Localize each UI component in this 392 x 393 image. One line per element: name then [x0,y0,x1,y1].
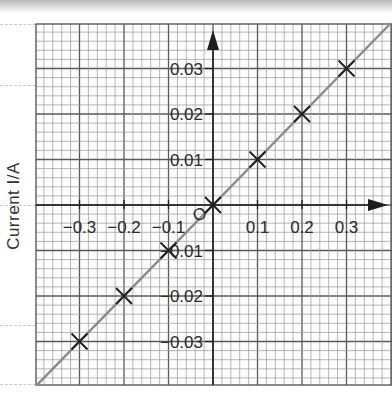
y-tick-label: −0.03 [160,333,203,352]
y-tick-label: −0.01 [160,242,203,261]
x-tick-label: 0.2 [290,218,314,237]
x-tick-label: 0.1 [246,218,270,237]
x-tick-label: −0.1 [152,218,186,237]
y-tick-label: 0.01 [170,151,203,170]
x-tick-label: −0.2 [107,218,141,237]
x-tick-label: −0.3 [63,218,97,237]
chart-plot: −0.3−0.2−0.10.10.20.30.030.020.01−0.01−0… [0,0,392,393]
y-tick-label: −0.02 [160,287,203,306]
x-tick-label: 0.3 [335,218,359,237]
y-tick-label: 0.02 [170,105,203,124]
y-tick-label: 0.03 [170,60,203,79]
